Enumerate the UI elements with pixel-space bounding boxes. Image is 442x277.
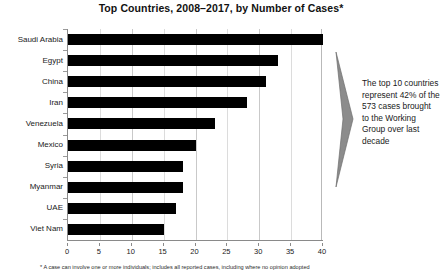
x-tick-label-25: 25 <box>222 247 230 256</box>
x-tick-label-40: 40 <box>318 247 326 256</box>
category-label-myanmar: Myanmar <box>1 182 63 191</box>
category-label-china: China <box>1 77 63 86</box>
bar-syria <box>68 161 183 172</box>
x-tick-mark-10 <box>131 243 132 246</box>
plot-area <box>67 29 322 240</box>
x-tick-label-20: 20 <box>190 247 198 256</box>
bar-row <box>68 50 321 71</box>
annotation-text: The top 10 countries represent 42% of th… <box>362 78 440 148</box>
x-axis-line <box>67 240 323 241</box>
bar-row <box>68 156 321 177</box>
x-tick-label-35: 35 <box>286 247 294 256</box>
x-tick-label-15: 15 <box>158 247 166 256</box>
x-tick-label-10: 10 <box>127 247 135 256</box>
x-tick-mark-5 <box>99 243 100 246</box>
bar-myanmar <box>68 182 183 193</box>
chart-title: Top Countries, 2008–2017, by Number of C… <box>0 2 442 14</box>
x-axis-tick-labels: 0510152025303540 <box>0 243 442 257</box>
bar-mexico <box>68 140 196 151</box>
bar-row <box>68 113 321 134</box>
bar-uae <box>68 203 176 214</box>
bar-egypt <box>68 55 278 66</box>
annotation-arrow-icon <box>333 52 359 187</box>
x-tick-label-0: 0 <box>65 247 69 256</box>
category-label-syria: Syria <box>1 161 63 170</box>
chart-figure: Top Countries, 2008–2017, by Number of C… <box>0 0 442 277</box>
bar-viet-nam <box>68 224 164 235</box>
bar-venezuela <box>68 118 215 129</box>
x-tick-mark-35 <box>290 243 291 246</box>
bar-saudi-arabia <box>68 34 323 45</box>
category-label-mexico: Mexico <box>1 140 63 149</box>
x-tick-mark-15 <box>163 243 164 246</box>
x-tick-mark-25 <box>226 243 227 246</box>
category-label-uae: UAE <box>1 203 63 212</box>
bar-row <box>68 135 321 156</box>
bar-row <box>68 71 321 92</box>
y-axis-category-labels: Saudi ArabiaEgyptChinaIranVenezuelaMexic… <box>0 29 63 240</box>
category-label-iran: Iran <box>1 98 63 107</box>
x-tick-label-30: 30 <box>254 247 262 256</box>
category-label-viet-nam: Viet Nam <box>1 224 63 233</box>
bar-row <box>68 29 321 50</box>
bar-iran <box>68 97 247 108</box>
x-tick-mark-0 <box>67 243 68 246</box>
bar-row <box>68 92 321 113</box>
category-label-saudi-arabia: Saudi Arabia <box>1 35 63 44</box>
bar-row <box>68 198 321 219</box>
x-tick-mark-30 <box>258 243 259 246</box>
bar-row <box>68 219 321 240</box>
x-tick-label-5: 5 <box>97 247 101 256</box>
category-label-venezuela: Venezuela <box>1 119 63 128</box>
category-label-egypt: Egypt <box>1 56 63 65</box>
bar-china <box>68 76 266 87</box>
chart-footnote: * A case can involve one or more individ… <box>40 264 440 270</box>
bar-row <box>68 177 321 198</box>
x-tick-mark-20 <box>195 243 196 246</box>
x-tick-mark-40 <box>322 243 323 246</box>
